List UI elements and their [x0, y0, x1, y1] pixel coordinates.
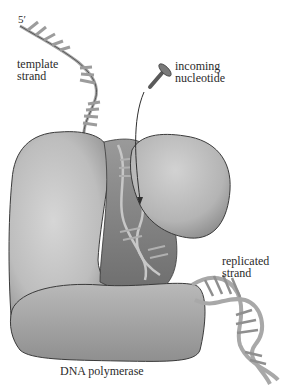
incoming-nucleotide-label: incoming nucleotide: [175, 60, 225, 84]
replicated-strand-label: replicated strand: [222, 255, 269, 279]
dna-polymerase-illustration: 5′ template strand incoming nucleotide r…: [0, 0, 285, 385]
template-strand-label: template strand: [17, 58, 58, 82]
dna-polymerase-label: DNA polymerase: [60, 365, 144, 377]
incoming-nucleotide: [150, 62, 173, 87]
five-prime-label: 5′: [18, 13, 26, 25]
polymerase-bottom-domain: [10, 283, 205, 361]
replicated-strand: [192, 275, 278, 384]
